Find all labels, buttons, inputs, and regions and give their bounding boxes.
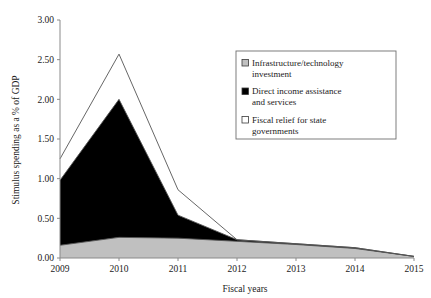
x-axis: 2009201020112012201320142015	[51, 258, 424, 274]
y-tick-label: 1.00	[37, 174, 54, 184]
legend-label-fiscal-relief-line2: governments	[252, 126, 299, 136]
chart-legend[interactable]: Infrastructure/technology investment Dir…	[236, 51, 396, 139]
chart-title-cropped	[0, 0, 431, 5]
chart-canvas: 0.000.501.001.502.002.503.00 20092010201…	[0, 0, 431, 298]
legend-label-direct-income-line2: and services	[252, 97, 297, 107]
legend-label-fiscal-relief-line1: Fiscal relief for state	[252, 115, 326, 125]
y-tick-label: 0.00	[37, 253, 54, 263]
y-tick-label: 1.50	[37, 134, 54, 144]
legend-label-infrastructure-line1: Infrastructure/technology	[252, 58, 344, 68]
y-tick-label: 0.50	[37, 214, 54, 224]
y-tick-label: 2.50	[37, 55, 54, 65]
y-axis-title: Stimulus spending as a % of GDP	[11, 75, 21, 204]
x-tick-label: 2012	[228, 264, 247, 274]
x-tick-label: 2013	[287, 264, 306, 274]
y-tick-label: 2.00	[37, 95, 54, 105]
y-axis: 0.000.501.001.502.002.503.00	[37, 15, 60, 263]
y-tick-label: 3.00	[37, 15, 54, 25]
legend-label-direct-income-line1: Direct income assistance	[252, 86, 341, 96]
x-tick-label: 2014	[346, 264, 365, 274]
legend-swatch-fiscal-relief	[242, 117, 249, 124]
x-axis-title: Fiscal years	[222, 284, 267, 294]
x-tick-label: 2010	[110, 264, 129, 274]
legend-swatch-direct-income	[242, 88, 249, 95]
legend-swatch-infrastructure	[242, 60, 249, 67]
stacked-area-chart: 0.000.501.001.502.002.503.00 20092010201…	[0, 0, 431, 298]
x-tick-label: 2015	[405, 264, 424, 274]
x-tick-label: 2009	[51, 264, 70, 274]
x-tick-label: 2011	[169, 264, 188, 274]
legend-label-infrastructure-line2: investment	[252, 69, 292, 79]
